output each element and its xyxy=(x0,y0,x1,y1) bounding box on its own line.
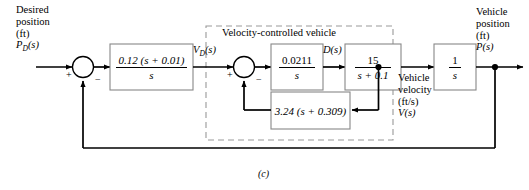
block-integrator-denominator: s xyxy=(449,68,461,81)
block-velocity-gain-denominator: s xyxy=(279,68,315,81)
block-integrator-numerator: 1 xyxy=(449,54,461,68)
signal-label-d-s: D(s) xyxy=(323,44,342,56)
group-label-velocity-controlled-vehicle: Velocity-controlled vehicle xyxy=(222,27,336,39)
signal-label-vd-s: VD(s) xyxy=(193,44,216,59)
block-controller: 0.12 (s + 0.01) s xyxy=(110,44,193,90)
sum2-minus-sign: − xyxy=(256,74,262,85)
figure-caption: (c) xyxy=(258,168,269,179)
block-velocity-gain: 0.0211 s xyxy=(271,44,323,90)
signal-velocity-line3: (ft/s) xyxy=(398,96,432,108)
input-label-line3: (ft) xyxy=(16,28,50,40)
output-label-line1: Vehicle xyxy=(476,6,510,18)
block-vehicle-dynamics-fraction: 15 s + 0.1 xyxy=(355,54,392,81)
block-integrator: 1 s xyxy=(434,44,476,90)
input-symbol-tail: (s) xyxy=(28,39,39,50)
block-inner-feedback: 3.24 (s + 0.309) xyxy=(271,92,350,129)
input-label-line1: Desired xyxy=(16,4,50,16)
input-label-line2: position xyxy=(16,16,50,28)
sum2-plus-sign: + xyxy=(227,69,233,80)
input-label-desired-position: Desired position (ft) PD(s) xyxy=(16,4,50,54)
block-velocity-gain-fraction: 0.0211 s xyxy=(279,54,315,81)
block-inner-feedback-expression: 3.24 (s + 0.309) xyxy=(275,105,346,117)
block-integrator-fraction: 1 s xyxy=(449,54,461,81)
summing-junction-outer xyxy=(73,57,94,78)
signal-velocity-line1: Vehicle xyxy=(398,72,432,84)
input-symbol-pd-s: PD(s) xyxy=(16,39,50,54)
block-vehicle-dynamics-numerator: 15 xyxy=(355,54,392,68)
output-label-line2: position xyxy=(476,18,510,30)
signal-velocity-line2: velocity xyxy=(398,84,432,96)
block-vehicle-dynamics: 15 s + 0.1 xyxy=(345,44,401,90)
output-label-vehicle-position: Vehicle position (ft) P(s) xyxy=(476,6,510,53)
block-controller-numerator: 0.12 (s + 0.01) xyxy=(116,54,188,68)
block-vehicle-dynamics-denominator: s + 0.1 xyxy=(355,68,392,81)
signal-velocity-symbol: V(s) xyxy=(398,107,432,119)
block-controller-denominator: s xyxy=(116,68,188,81)
output-label-line3: (ft) xyxy=(476,30,510,42)
signal-label-vehicle-velocity: Vehicle velocity (ft/s) V(s) xyxy=(398,72,432,119)
summing-junction-inner xyxy=(234,57,255,78)
sum1-plus-sign: + xyxy=(66,69,72,80)
figure-block-diagram: Desired position (ft) PD(s) + − 0.12 (s … xyxy=(0,0,529,190)
sum1-minus-sign: − xyxy=(95,74,101,85)
block-controller-fraction: 0.12 (s + 0.01) s xyxy=(116,54,188,81)
output-symbol-p-s: P(s) xyxy=(476,41,510,53)
signal-vd-tail: (s) xyxy=(205,44,216,55)
block-velocity-gain-numerator: 0.0211 xyxy=(279,54,315,68)
